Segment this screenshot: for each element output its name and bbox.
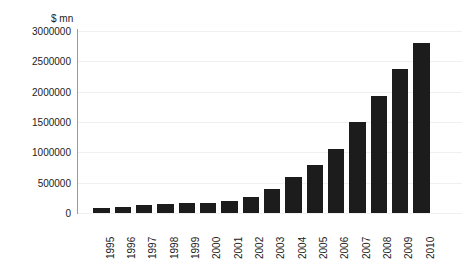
x-tick-label: 2002 bbox=[240, 215, 261, 261]
x-tick-label: 1997 bbox=[133, 215, 154, 261]
x-tick-label: 2005 bbox=[304, 215, 325, 261]
bar bbox=[115, 207, 131, 213]
bar-series bbox=[78, 31, 462, 213]
x-tick-label: 2004 bbox=[283, 215, 304, 261]
bar bbox=[285, 177, 301, 213]
x-tick-label: 2006 bbox=[325, 215, 346, 261]
bar bbox=[93, 208, 109, 213]
bar bbox=[264, 189, 280, 213]
y-tick-label: 3000000 bbox=[0, 26, 71, 37]
x-tick-label: 1999 bbox=[176, 215, 197, 261]
x-tick-label: 1996 bbox=[112, 215, 133, 261]
bar bbox=[243, 197, 259, 213]
bar bbox=[136, 205, 152, 213]
y-tick-label: 500000 bbox=[0, 177, 71, 188]
bar bbox=[221, 201, 237, 213]
bar-chart: $ mn 05000001000000150000020000002500000… bbox=[0, 0, 472, 263]
x-tick-label: 2008 bbox=[368, 215, 389, 261]
bar bbox=[371, 96, 387, 213]
x-tick-label: 2010 bbox=[411, 215, 432, 261]
x-tick-label-text: 2010 bbox=[425, 215, 436, 259]
x-tick-label: 1998 bbox=[155, 215, 176, 261]
x-tick-label: 2000 bbox=[197, 215, 218, 261]
bar bbox=[307, 165, 323, 213]
x-tick-label: 2007 bbox=[347, 215, 368, 261]
bar bbox=[200, 203, 216, 213]
x-tick-label: 1995 bbox=[91, 215, 112, 261]
y-tick-label: 1000000 bbox=[0, 147, 71, 158]
bar bbox=[392, 69, 408, 213]
x-tick-label: 2003 bbox=[261, 215, 282, 261]
bar bbox=[328, 149, 344, 213]
bar bbox=[413, 43, 429, 213]
x-tick-label: 2009 bbox=[389, 215, 410, 261]
bar bbox=[157, 204, 173, 213]
bar bbox=[349, 122, 365, 213]
y-tick-label: 2500000 bbox=[0, 56, 71, 67]
y-tick-label: 2000000 bbox=[0, 86, 71, 97]
gridline bbox=[78, 213, 462, 214]
y-tick-label: 0 bbox=[0, 208, 71, 219]
y-tick-label: 1500000 bbox=[0, 117, 71, 128]
x-tick-label: 2001 bbox=[219, 215, 240, 261]
x-axis-tick-labels: 1995199619971998199920002001200220032004… bbox=[78, 215, 462, 263]
bar bbox=[179, 203, 195, 213]
y-axis-tick-labels: 0500000100000015000002000000250000030000… bbox=[0, 0, 74, 263]
